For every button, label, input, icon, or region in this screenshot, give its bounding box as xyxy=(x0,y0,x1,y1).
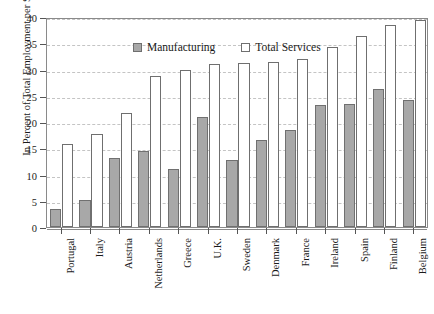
bar-total-services xyxy=(209,64,220,227)
x-tick-label: Spain xyxy=(359,238,370,262)
bar-total-services xyxy=(415,20,426,227)
x-axis-ticks xyxy=(46,228,428,236)
x-tick-mark xyxy=(208,228,209,234)
y-tick-label: 0 xyxy=(32,223,37,234)
x-tick-label: U.K. xyxy=(212,238,223,258)
x-tick-label: Belgium xyxy=(417,238,428,274)
x-tick-mark xyxy=(384,228,385,234)
y-tick-label: 15 xyxy=(27,144,38,155)
bar-group xyxy=(341,19,370,227)
bar-chart: In Percent of Total Employment per Secto… xyxy=(0,0,434,314)
x-tick-label: Portugal xyxy=(65,238,76,274)
x-tick-mark xyxy=(119,228,120,234)
bar-total-services xyxy=(268,62,279,227)
legend-swatch-total-services-icon xyxy=(241,43,250,52)
x-tick-label: Austria xyxy=(123,238,134,269)
y-tick-label: 10 xyxy=(27,170,38,181)
x-tick-mark xyxy=(237,228,238,234)
bar-total-services xyxy=(356,36,367,227)
y-tick-label: 5 xyxy=(32,196,37,207)
bar-group xyxy=(76,19,105,227)
legend-label-manufacturing: Manufacturing xyxy=(147,41,215,53)
bar-manufacturing xyxy=(50,209,61,227)
legend-item-total-services: Total Services xyxy=(241,41,320,53)
bar-manufacturing xyxy=(256,140,267,227)
bar-total-services xyxy=(121,113,132,227)
bar-manufacturing xyxy=(373,89,384,227)
bar-manufacturing xyxy=(138,151,149,227)
bar-total-services xyxy=(238,63,249,227)
bar-manufacturing xyxy=(285,130,296,227)
x-axis-labels: PortugalItalyAustriaNetherlandsGreeceU.K… xyxy=(46,238,428,314)
y-tick-label: 30 xyxy=(27,65,38,76)
x-tick-mark xyxy=(296,228,297,234)
bar-group xyxy=(106,19,135,227)
x-tick-mark xyxy=(178,228,179,234)
bar-manufacturing xyxy=(315,105,326,227)
y-tick-label: 35 xyxy=(27,39,38,50)
bar-total-services xyxy=(150,76,161,227)
bar-group xyxy=(47,19,76,227)
bar-manufacturing xyxy=(168,169,179,227)
bar-manufacturing xyxy=(344,104,355,227)
x-tick-label: Sweden xyxy=(241,238,252,271)
legend: Manufacturing Total Services xyxy=(133,41,321,53)
x-tick-mark xyxy=(325,228,326,234)
bar-total-services xyxy=(180,70,191,228)
legend-swatch-manufacturing-icon xyxy=(133,43,142,52)
bar-total-services xyxy=(385,25,396,227)
x-tick-label: Ireland xyxy=(329,238,340,268)
legend-item-manufacturing: Manufacturing xyxy=(133,41,215,53)
x-tick-label: Greece xyxy=(182,238,193,268)
x-tick-mark xyxy=(413,228,414,234)
x-tick-label: Denmark xyxy=(270,238,281,277)
bar-total-services xyxy=(297,59,308,227)
x-tick-label: France xyxy=(300,238,311,267)
bar-manufacturing xyxy=(226,160,237,227)
x-tick-mark xyxy=(355,228,356,234)
bar-manufacturing xyxy=(197,117,208,227)
bar-total-services xyxy=(91,134,102,227)
y-axis-ticks: 0510152025303540 xyxy=(0,18,46,228)
y-tick-label: 25 xyxy=(27,91,38,102)
bar-manufacturing xyxy=(109,158,120,227)
x-tick-mark xyxy=(90,228,91,234)
x-tick-mark xyxy=(61,228,62,234)
x-tick-label: Finland xyxy=(388,238,399,270)
x-tick-mark xyxy=(149,228,150,234)
bar-manufacturing xyxy=(79,200,90,227)
bar-manufacturing xyxy=(403,100,414,227)
x-tick-label: Netherlands xyxy=(153,238,164,289)
x-tick-mark xyxy=(266,228,267,234)
y-tick-label: 40 xyxy=(27,13,38,24)
bar-group xyxy=(370,19,399,227)
y-tick-label: 20 xyxy=(27,118,38,129)
bar-total-services xyxy=(327,47,338,227)
plot-area: Manufacturing Total Services xyxy=(46,18,428,228)
legend-label-total-services: Total Services xyxy=(255,41,320,53)
bar-total-services xyxy=(62,144,73,227)
x-tick-label: Italy xyxy=(94,238,105,257)
bar-group xyxy=(400,19,429,227)
